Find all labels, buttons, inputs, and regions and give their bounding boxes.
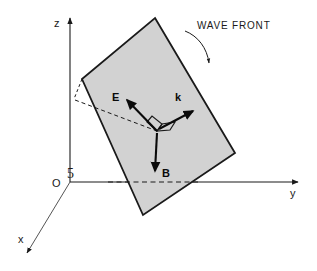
x-axis-line [27, 182, 70, 253]
diagram-canvas: x z y O 5 [0, 0, 317, 271]
z-axis: z [54, 17, 70, 182]
z-axis-label: z [54, 17, 60, 29]
hidden-edge-dash-left [74, 79, 82, 99]
wave-front-callout: WAVE FRONT [185, 20, 271, 63]
callout-text: WAVE FRONT [197, 20, 271, 31]
vector-k-label: k [175, 91, 182, 103]
callout-leader-line [185, 31, 209, 63]
wave-front-polygon [82, 18, 235, 215]
vector-B-label: B [162, 167, 170, 179]
y-axis-label: y [290, 187, 296, 199]
wave-front-diagram: x z y O 5 [0, 0, 317, 271]
wave-front-plane [82, 18, 235, 215]
x-axis-label: x [18, 233, 24, 245]
origin-label: O [52, 177, 61, 189]
x-axis: x [18, 182, 70, 253]
vector-E-label: E [112, 91, 119, 103]
angle-marker-label: 5 [67, 166, 74, 181]
origin-group: O 5 [52, 166, 74, 189]
